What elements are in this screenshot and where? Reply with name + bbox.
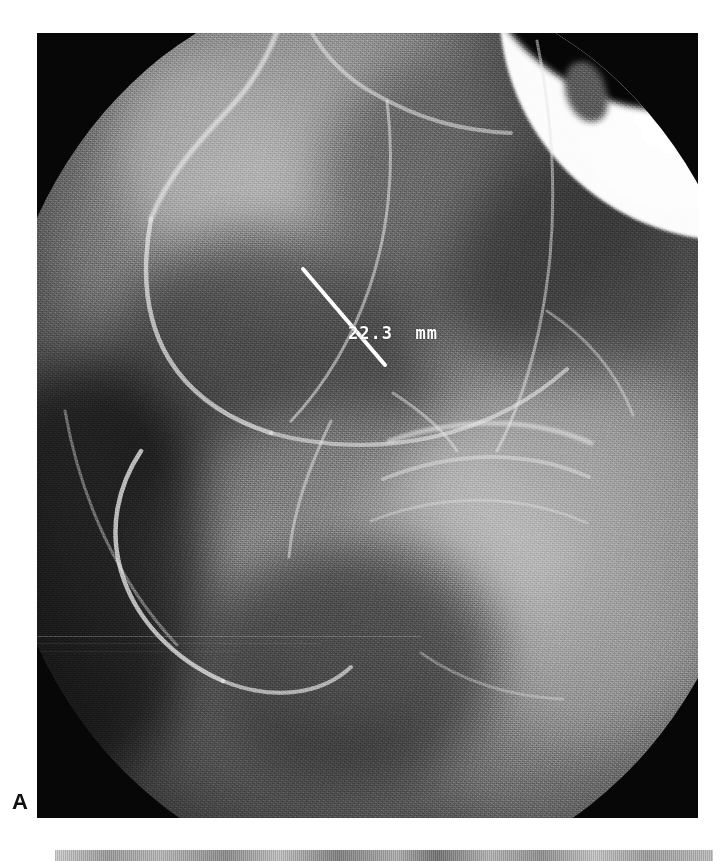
scan-artifact	[37, 643, 321, 644]
panel-b-radiograph-partial	[55, 850, 713, 861]
panel-label-a: A	[12, 791, 28, 813]
panel-b-grain	[55, 850, 713, 861]
measurement-label: 22.3 mm	[348, 323, 438, 343]
scan-artifact	[37, 636, 421, 637]
figure-root: 22.3 mm A	[0, 0, 728, 861]
scan-artifact	[37, 651, 241, 652]
fluoroscopy-field	[37, 33, 698, 818]
bone-cortical-outlines	[37, 33, 652, 766]
panel-a-radiograph: 22.3 mm	[37, 33, 698, 818]
